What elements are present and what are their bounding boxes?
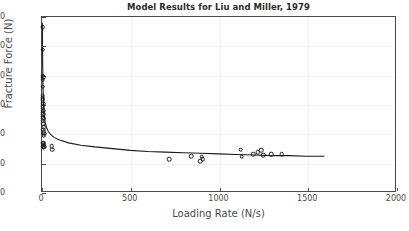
data-point-marker bbox=[200, 157, 205, 162]
x-tick-mark bbox=[308, 188, 309, 192]
data-point-marker bbox=[40, 25, 45, 30]
y-tick-label: 250 bbox=[0, 41, 5, 50]
x-tick-mark bbox=[42, 188, 43, 192]
x-tick-mark bbox=[131, 188, 132, 192]
data-point-marker bbox=[239, 154, 244, 159]
data-point-marker bbox=[259, 148, 264, 153]
y-tick-label: 200 bbox=[0, 70, 5, 79]
data-point-marker bbox=[41, 85, 46, 90]
x-tick-label: 2000 bbox=[386, 194, 406, 203]
data-point-marker bbox=[50, 147, 55, 152]
data-point-marker bbox=[189, 154, 194, 159]
data-point-marker bbox=[239, 147, 244, 152]
data-point-marker bbox=[41, 146, 46, 151]
x-tick-label: 0 bbox=[38, 194, 43, 203]
y-tick-label: 150 bbox=[0, 100, 5, 109]
y-tick-label: 50 bbox=[0, 158, 5, 167]
chart-figure: Model Results for Liu and Miller, 1979 F… bbox=[0, 0, 409, 231]
data-point-marker bbox=[269, 152, 274, 157]
x-tick-label: 500 bbox=[122, 194, 137, 203]
x-tick-mark bbox=[397, 188, 398, 192]
data-point-marker bbox=[279, 152, 284, 157]
x-tick-label: 1500 bbox=[297, 194, 317, 203]
chart-title: Model Results for Liu and Miller, 1979 bbox=[41, 2, 396, 12]
data-point-marker bbox=[40, 77, 45, 82]
data-point-marker bbox=[40, 48, 45, 53]
x-axis-label: Loading Rate (N/s) bbox=[41, 208, 396, 219]
data-point-marker bbox=[167, 157, 172, 162]
y-tick-label: 300 bbox=[0, 12, 5, 21]
data-point-marker bbox=[41, 133, 46, 138]
y-tick-mark bbox=[42, 17, 46, 18]
y-tick-label: 0 bbox=[0, 188, 5, 197]
x-tick-mark bbox=[220, 188, 221, 192]
data-point-marker bbox=[261, 153, 266, 158]
plot-area bbox=[41, 16, 396, 192]
x-tick-label: 1000 bbox=[208, 194, 228, 203]
model-fit-line bbox=[42, 23, 324, 156]
y-tick-label: 100 bbox=[0, 129, 5, 138]
y-tick-mark bbox=[42, 164, 46, 165]
data-layer bbox=[42, 17, 395, 191]
